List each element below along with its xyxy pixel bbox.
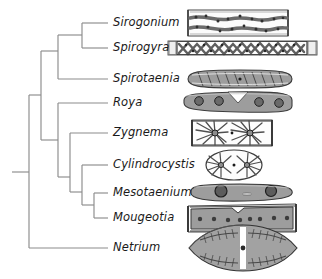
organism-roya: [184, 92, 292, 112]
organism-cylindrocystis: [206, 150, 262, 180]
taxon-label-spirogyra: Spirogyra: [113, 42, 169, 54]
organism-spirotaenia: [188, 70, 292, 88]
taxon-label-roya: Roya: [113, 97, 142, 109]
cladogram-figure: Sirogonium Spirogyra Spirotaenia Roya Zy…: [0, 0, 322, 279]
taxon-label-cylindrocystis: Cylindrocystis: [113, 159, 195, 171]
tree-branches: [12, 23, 108, 248]
organism-spirogyra: [168, 41, 317, 55]
organism-mesotaenium: [191, 184, 292, 201]
organism-zygnema: [192, 120, 272, 146]
taxon-label-netrium: Netrium: [113, 242, 160, 254]
taxon-label-sirogonium: Sirogonium: [113, 17, 180, 29]
taxon-label-mesotaenium: Mesotaenium: [113, 187, 192, 199]
organism-sirogonium: [188, 10, 288, 36]
taxon-label-mougeotia: Mougeotia: [113, 212, 174, 224]
taxon-label-spirotaenia: Spirotaenia: [113, 73, 180, 85]
taxon-label-zygnema: Zygnema: [113, 127, 168, 139]
